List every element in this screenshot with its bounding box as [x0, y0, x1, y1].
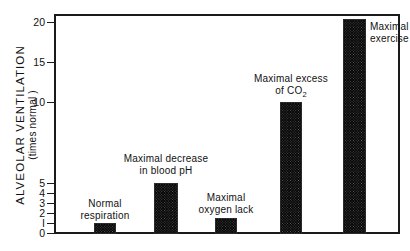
caption-line2: respiration [81, 210, 130, 221]
caption-line1: Normal [88, 198, 121, 209]
y-tick-label-0: 0 [39, 227, 45, 240]
caption-line2: in blood pH [140, 165, 193, 176]
caption-line2: of CO [275, 85, 302, 96]
y-tick-4: 4 [47, 193, 54, 194]
y-tick-2: 2 [47, 213, 54, 214]
bar-caption-maximal-excess-of-co2: Maximal excessof CO2 [234, 73, 348, 100]
caption-line1: Maximal [370, 21, 409, 32]
y-axis-label: ALVEOLAR VENTILATION (times normal ) [0, 0, 34, 251]
y-tick-5: 5 [47, 183, 54, 184]
caption-line1: Maximal excess [254, 73, 328, 84]
y-tick-label-20: 20 [33, 16, 45, 29]
caption-line2: oxygen lack [198, 204, 253, 215]
bar-maximal-exercise[interactable] [343, 19, 366, 234]
y-tick-label-10: 10 [33, 96, 45, 109]
alveolar-ventilation-bar-chart: ALVEOLAR VENTILATION (times normal ) 20 … [0, 0, 410, 251]
bar-maximal-decrease-in-blood-ph[interactable] [154, 183, 178, 234]
bar-caption-normal-respiration: Normalrespiration [65, 198, 145, 221]
plot-area: Normalrespiration Maximal decreasein blo… [54, 14, 400, 234]
y-tick-20: 20 [47, 22, 54, 23]
y-tick-10: 10 [47, 102, 54, 103]
y-tick-15: 15 [47, 62, 54, 63]
caption-line1: Maximal decrease [124, 153, 208, 164]
y-tick-label-15: 15 [33, 56, 45, 69]
bar-caption-maximal-oxygen-lack: Maximaloxygen lack [186, 192, 266, 215]
y-tick-1: I [47, 223, 54, 224]
bar-caption-maximal-exercise: Maximalexercise [370, 21, 410, 44]
caption-line2: exercise [370, 33, 409, 44]
y-tick-3: 3 [47, 203, 54, 204]
bar-maximal-excess-of-co2[interactable] [280, 102, 302, 234]
bar-maximal-oxygen-lack[interactable] [215, 218, 237, 234]
caption-line1: Maximal [207, 192, 246, 203]
y-axis-label-main: ALVEOLAR VENTILATION [14, 45, 27, 205]
caption-subscript: 2 [302, 90, 306, 99]
bar-normal-respiration[interactable] [94, 223, 116, 234]
bar-caption-maximal-decrease-in-blood-ph: Maximal decreasein blood pH [108, 153, 224, 176]
y-tick-0: 0 [47, 233, 54, 234]
